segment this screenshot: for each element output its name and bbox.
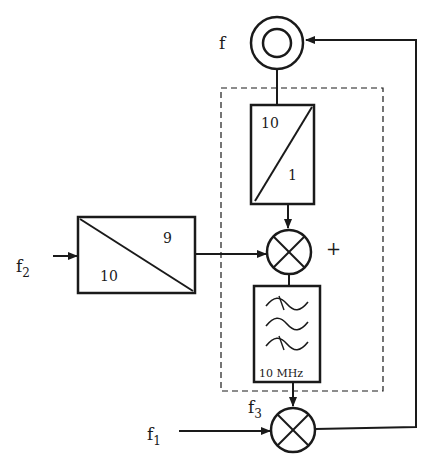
- divider-block-left: [78, 217, 195, 293]
- divider-top-denominator: 1: [288, 167, 297, 183]
- f3-label: f3: [248, 397, 262, 421]
- filter-frequency-label: 10 MHz: [259, 367, 303, 380]
- input-f1-label: f1: [147, 424, 161, 448]
- mixer-lower: [271, 408, 315, 452]
- output-terminal: [251, 17, 303, 69]
- block-diagram: f 10 1 + 9 10 f2 10 MHz: [0, 0, 438, 465]
- divider-left-bottom-value: 10: [100, 268, 118, 284]
- output-frequency-label: f: [219, 33, 227, 53]
- input-f2-label: f2: [16, 256, 30, 280]
- divider-left-top-value: 9: [163, 230, 172, 246]
- mixer-upper: [267, 230, 311, 274]
- divider-top-numerator: 10: [261, 115, 279, 131]
- mixer-plus-sign: +: [326, 238, 341, 259]
